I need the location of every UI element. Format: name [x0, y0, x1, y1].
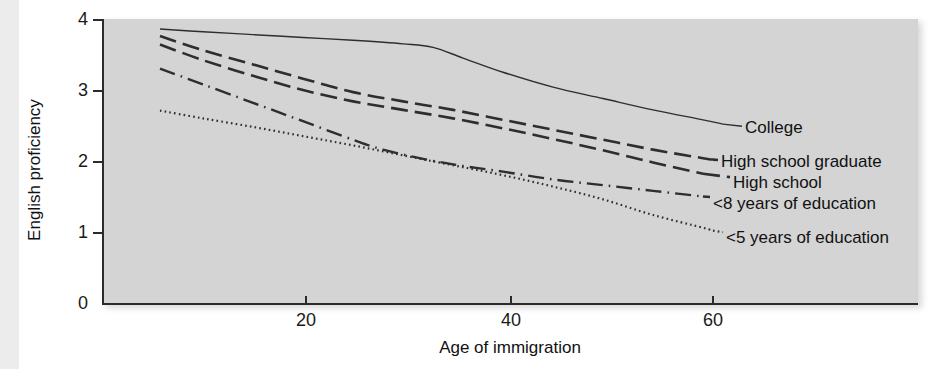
series-label-high-school: High school — [733, 173, 822, 193]
series-leader-high-school — [703, 174, 730, 177]
series-line-high-school-graduate — [160, 36, 713, 160]
figure-english-proficiency-chart: 4 3 2 1 0 20 40 60 English proficiency A… — [0, 0, 929, 369]
series-label-under-8-years: <8 years of education — [713, 194, 876, 214]
series-label-college: College — [745, 118, 803, 138]
series-label-high-school-graduate: High school graduate — [721, 152, 882, 172]
series-line-under-8-years — [160, 69, 703, 197]
series-line-under-5-years — [160, 111, 713, 231]
series-leader-college — [723, 124, 742, 126]
series-leader-under-5-years — [713, 231, 723, 233]
series-line-high-school — [160, 45, 703, 174]
series-line-college — [160, 29, 723, 124]
series-label-under-5-years: <5 years of education — [726, 228, 889, 248]
